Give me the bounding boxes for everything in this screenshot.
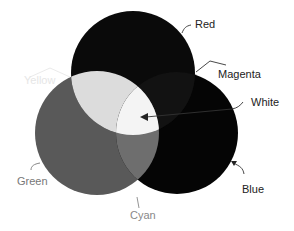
label-magenta: Magenta: [218, 68, 262, 80]
label-green: Green: [17, 175, 48, 187]
label-yellow: Yellow: [24, 74, 55, 86]
red-leader: [182, 25, 191, 33]
label-white: White: [251, 96, 279, 108]
label-red: Red: [195, 18, 215, 30]
cyan-leader: [137, 197, 139, 208]
label-blue: Blue: [242, 183, 264, 195]
green-leader: [31, 163, 40, 170]
blue-arrowhead-icon: [231, 161, 237, 166]
color-venn-diagram: Red Magenta White Yellow Green Blue Cyan: [0, 0, 294, 231]
label-cyan: Cyan: [130, 209, 156, 221]
